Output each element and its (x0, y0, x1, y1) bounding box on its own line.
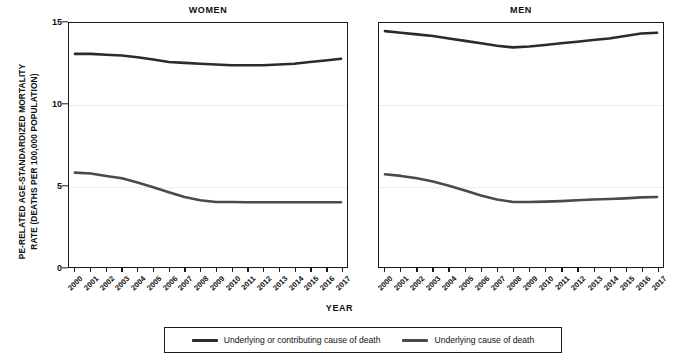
x-tick-label: 2011 (554, 274, 572, 292)
x-tick-label: 2000 (66, 274, 84, 292)
x-tick-mark (169, 268, 170, 272)
x-tick-mark (384, 268, 385, 272)
chart-legend: Underlying or contributing cause of deat… (164, 327, 562, 353)
x-tick-label: 2001 (82, 274, 100, 292)
series-layer (69, 23, 347, 267)
x-tick-label: 2007 (176, 274, 194, 292)
legend-line-icon (192, 339, 218, 342)
x-tick-label: 2004 (441, 274, 459, 292)
x-tick-mark (342, 268, 343, 272)
data-line-series-2 (75, 173, 341, 203)
data-line-series-2 (385, 174, 657, 202)
x-tick-mark (295, 268, 296, 272)
x-tick-mark (432, 268, 433, 272)
x-tick-mark (74, 268, 75, 272)
x-tick-label: 2014 (287, 274, 305, 292)
x-tick-mark (121, 268, 122, 272)
x-tick-mark (497, 268, 498, 272)
x-tick-mark (642, 268, 643, 272)
x-tick-mark (200, 268, 201, 272)
chart-figure: PE-RELATED AGE-STANDARDIZED MORTALITY RA… (0, 0, 679, 360)
x-tick-mark (279, 268, 280, 272)
x-tick-label: 2005 (457, 274, 475, 292)
legend-label: Underlying or contributing cause of deat… (224, 335, 381, 345)
x-tick-label: 2002 (408, 274, 426, 292)
x-tick-label: 2002 (98, 274, 116, 292)
y-axis-ticks: 051015 (14, 0, 62, 300)
x-tick-mark (610, 268, 611, 272)
y-tick-label: 15 (16, 17, 62, 27)
x-tick-label: 2017 (650, 274, 668, 292)
x-tick-label: 2009 (208, 274, 226, 292)
x-tick-label: 2007 (489, 274, 507, 292)
x-tick-mark (232, 268, 233, 272)
data-line-series-1 (385, 31, 657, 47)
x-tick-mark (561, 268, 562, 272)
x-axis-label: YEAR (0, 303, 679, 313)
x-tick-label: 2010 (537, 274, 555, 292)
x-tick-mark (513, 268, 514, 272)
legend-label: Underlying cause of death (434, 335, 534, 345)
legend-item[interactable]: Underlying or contributing cause of deat… (192, 335, 381, 345)
x-tick-label: 2004 (129, 274, 147, 292)
x-tick-label: 2015 (303, 274, 321, 292)
plot-panel-women (68, 22, 348, 268)
series-layer (379, 23, 663, 267)
x-tick-mark (658, 268, 659, 272)
x-tick-label: 2008 (192, 274, 210, 292)
x-tick-mark (400, 268, 401, 272)
x-tick-label: 2005 (145, 274, 163, 292)
x-tick-mark (263, 268, 264, 272)
x-tick-label: 2014 (602, 274, 620, 292)
x-tick-mark (90, 268, 91, 272)
x-tick-label: 2010 (224, 274, 242, 292)
x-tick-label: 2009 (521, 274, 539, 292)
x-tick-label: 2013 (586, 274, 604, 292)
legend-item[interactable]: Underlying cause of death (402, 335, 534, 345)
plot-area-women (69, 23, 347, 267)
x-tick-mark (465, 268, 466, 272)
legend-line-icon (402, 339, 428, 342)
x-tick-mark (137, 268, 138, 272)
x-tick-mark (481, 268, 482, 272)
x-tick-mark (448, 268, 449, 272)
x-tick-mark (545, 268, 546, 272)
x-tick-label: 2006 (161, 274, 179, 292)
x-tick-mark (184, 268, 185, 272)
x-tick-label: 2015 (618, 274, 636, 292)
y-tick-label: 5 (16, 181, 62, 191)
y-tick-label: 10 (16, 99, 62, 109)
x-tick-mark (216, 268, 217, 272)
x-tick-label: 2012 (255, 274, 273, 292)
x-tick-mark (247, 268, 248, 272)
x-tick-label: 2000 (376, 274, 394, 292)
plot-area-men (379, 23, 663, 267)
x-tick-label: 2003 (113, 274, 131, 292)
x-tick-label: 2017 (334, 274, 352, 292)
x-tick-mark (310, 268, 311, 272)
x-tick-mark (626, 268, 627, 272)
x-tick-mark (153, 268, 154, 272)
panel-title-men: MEN (378, 5, 664, 15)
x-tick-label: 2001 (392, 274, 410, 292)
x-tick-mark (529, 268, 530, 272)
x-tick-label: 2003 (424, 274, 442, 292)
x-tick-mark (326, 268, 327, 272)
x-tick-label: 2012 (569, 274, 587, 292)
x-tick-mark (577, 268, 578, 272)
data-line-series-1 (75, 54, 341, 65)
panel-title-women: WOMEN (68, 5, 348, 15)
x-tick-label: 2006 (473, 274, 491, 292)
plot-panel-men (378, 22, 664, 268)
x-tick-mark (106, 268, 107, 272)
y-tick-label: 0 (16, 263, 62, 273)
x-tick-label: 2013 (271, 274, 289, 292)
x-tick-label: 2016 (634, 274, 652, 292)
x-tick-mark (416, 268, 417, 272)
x-tick-label: 2011 (240, 274, 258, 292)
x-tick-label: 2008 (505, 274, 523, 292)
x-tick-label: 2016 (318, 274, 336, 292)
x-tick-mark (594, 268, 595, 272)
